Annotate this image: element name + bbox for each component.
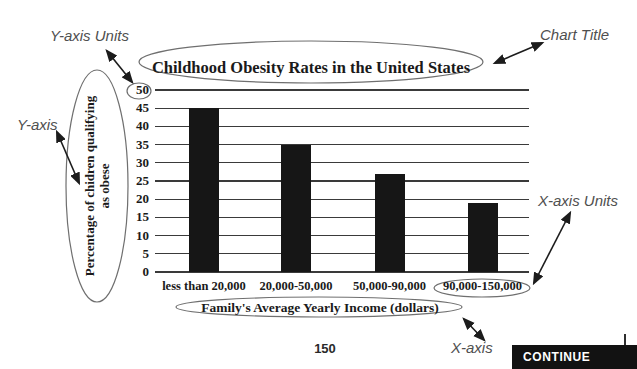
x-axis-title: Family's Average Yearly Income (dollars) [180,300,460,316]
chart-title-callout-label: Chart Title [540,26,609,43]
chart-title: Childhood Obesity Rates in the United St… [138,58,484,78]
x-axis-units-callout-label: X-axis Units [538,192,618,209]
x-axis-arrow [464,319,484,340]
x-tick-label: 90,000-150,000 [423,279,543,294]
x-axis-units-arrow [534,213,570,283]
y-axis-title: Percentage of chidren qualifying as obes… [82,70,112,302]
y-axis-title-line2: as obese [97,70,112,302]
scanned-test-page: Y-axis Units Chart Title Y-axis X-axis U… [0,0,637,369]
bar [189,108,219,272]
gridline [155,89,529,90]
y-axis-units-callout-label: Y-axis Units [50,27,129,44]
y-axis-title-line1: Percentage of chidren qualifying [82,70,97,302]
y-axis-callout-label: Y-axis [17,116,58,133]
page-number: 150 [280,341,370,356]
bar [375,174,405,272]
bar [468,203,498,272]
chart-title-arrow [495,43,542,63]
x-axis-callout-label: X-axis [451,339,493,356]
bar [281,145,311,272]
y-axis-arrow [57,132,79,183]
continue-button[interactable]: CONTINUE [512,345,637,369]
